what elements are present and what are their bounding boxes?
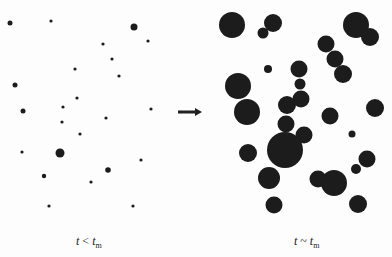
particle-circle [322, 108, 339, 125]
particle-circle [278, 116, 295, 133]
particle-circle [225, 73, 251, 99]
particle-dot [42, 174, 46, 178]
particle-circle [258, 167, 280, 189]
particle-dot [146, 39, 149, 42]
particle-dot [78, 132, 81, 135]
transition-arrow-icon [178, 108, 202, 116]
particle-dot [149, 107, 152, 110]
particle-circle [361, 28, 379, 46]
particle-circle [327, 51, 344, 68]
right-panel-caption: t ~ tm [294, 234, 319, 250]
caption-relation: ~ [297, 234, 310, 248]
particle-dot [60, 120, 63, 123]
particle-circle [239, 144, 257, 162]
particle-dot [101, 42, 104, 45]
particle-circle [310, 171, 327, 188]
particle-dot [117, 74, 120, 77]
caption-subscript: m [313, 241, 319, 250]
particle-dot [139, 158, 142, 161]
particle-circle [264, 65, 272, 73]
particle-dot [8, 21, 13, 26]
particle-circle [266, 197, 283, 214]
particle-circle [351, 164, 361, 174]
right-panel-grown-particles [219, 12, 384, 214]
caption-subscript: m [95, 241, 101, 250]
particle-dot [13, 83, 18, 88]
particle-circle [234, 99, 260, 125]
particle-dot [131, 24, 138, 31]
particle-dot [110, 57, 113, 60]
particle-circle [258, 28, 269, 39]
particle-circle [359, 151, 376, 168]
particle-dot [21, 109, 26, 114]
particle-dot [89, 180, 92, 183]
particle-dot [20, 150, 23, 153]
particle-circle [278, 96, 296, 114]
caption-relation: < [79, 234, 92, 248]
particle-circle [267, 132, 303, 168]
particle-circle [366, 99, 384, 117]
particle-circle [295, 79, 306, 90]
particle-circle [349, 131, 356, 138]
left-panel-caption: t < tm [76, 234, 102, 250]
particle-dot [105, 167, 111, 173]
particle-dot [131, 204, 134, 207]
particle-circle [291, 61, 308, 78]
particle-dot [61, 105, 64, 108]
diagram-canvas [0, 0, 392, 257]
particle-dot [75, 96, 78, 99]
particle-circle [318, 36, 335, 53]
particle-dot [49, 19, 52, 22]
particle-dot [47, 204, 50, 207]
particle-circle [349, 195, 367, 213]
left-panel-small-particles [8, 19, 182, 207]
particle-dot [104, 116, 107, 119]
particle-circle [334, 65, 352, 83]
particle-dot [73, 67, 76, 70]
particle-growth-diagram: t < tm t ~ tm [0, 0, 392, 257]
particle-dot [56, 149, 65, 158]
particle-circle [219, 12, 245, 38]
